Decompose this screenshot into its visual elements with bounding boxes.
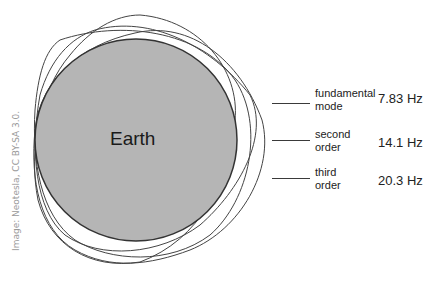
legend-third: third order 20.3 Hz <box>272 163 442 203</box>
legend-name: third order <box>315 166 341 192</box>
legend-line <box>272 103 310 104</box>
legend-name: second order <box>315 128 350 154</box>
earth-label: Earth <box>110 128 155 150</box>
legend-frequency: 7.83 Hz <box>378 91 423 106</box>
legend-frequency: 14.1 Hz <box>378 135 423 150</box>
legend-line <box>272 178 310 179</box>
image-credit: Image: Neotesla, CC BY-SA 3.0. <box>11 131 21 251</box>
legend-fundamental: fundamental mode 7.83 Hz <box>272 87 442 127</box>
legend-name: fundamental mode <box>315 87 376 113</box>
legend-frequency: 20.3 Hz <box>378 173 423 188</box>
legend-line <box>272 140 310 141</box>
legend-second: second order 14.1 Hz <box>272 125 442 165</box>
